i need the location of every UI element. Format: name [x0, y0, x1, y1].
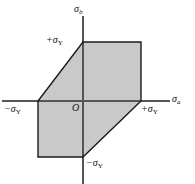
tick-label-positive-sigma-y-horizontal: +σY	[141, 104, 158, 116]
tick-label-positive-sigma-y-vertical: +σY	[46, 35, 63, 47]
tick-label-negative-sigma-y-horizontal: −σY	[4, 104, 21, 116]
tick-label-negative-sigma-y-vertical: −σY	[86, 158, 103, 170]
axis-label-sigma-b: σb	[74, 4, 82, 16]
origin-label: O	[72, 103, 79, 113]
axis-label-sigma-a: σa	[172, 94, 180, 106]
